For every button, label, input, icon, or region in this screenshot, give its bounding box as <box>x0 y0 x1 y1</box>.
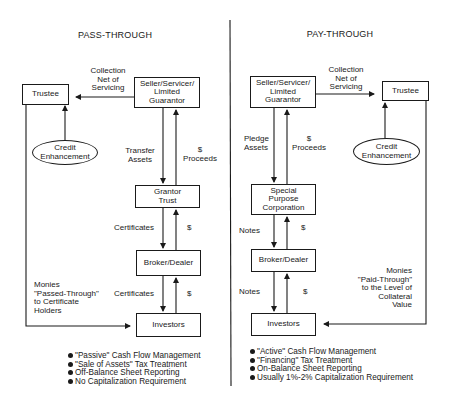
pyt-spc-label: Special Purpose Corporation <box>263 187 305 213</box>
pt-seller-box: Seller/Servicer/ Limited Guarantor <box>134 77 200 108</box>
pt-investors-box: Investors <box>136 313 201 337</box>
pt-grantor-trust-label: Grantor Trust <box>154 188 181 205</box>
bullet-icon <box>250 358 255 363</box>
divider-line <box>230 20 231 386</box>
pt-credit-enhancement-ellipse: Credit Enhancement <box>32 140 98 165</box>
pt-credit-enhancement-label: Credit Enhancement <box>40 144 89 161</box>
pt-dollar-label-1: $ <box>187 224 191 233</box>
pt-proceeds-label: $ Proceeds <box>180 146 220 163</box>
bullet-icon <box>250 366 255 371</box>
pyt-proceeds-label: $ Proceeds <box>288 135 330 152</box>
pyt-bullet-item: Usually 1%-2% Capitalization Requirement <box>250 374 413 383</box>
pyt-trustee-label: Trustee <box>392 87 419 96</box>
bullet-icon <box>250 349 255 354</box>
pyt-investors-box: Investors <box>251 313 316 336</box>
pt-trustee-label: Trustee <box>32 90 59 99</box>
pyt-monies-label: Monies "Paid-Through" to the Level of Co… <box>352 267 412 310</box>
pyt-bullet-list: "Active" Cash Flow Management "Financing… <box>250 348 413 382</box>
pt-investors-label: Investors <box>152 321 184 330</box>
pt-bullet-list: "Passive" Cash Flow Management "Sale of … <box>68 352 201 386</box>
bullet-icon <box>68 370 73 375</box>
pt-bullet-item: No Capitalization Requirement <box>68 378 201 387</box>
pt-seller-label: Seller/Servicer/ Limited Guarantor <box>140 80 194 106</box>
pyt-seller-box: Seller/Servicer/ Limited Guarantor <box>250 76 316 108</box>
pyt-credit-enhancement-ellipse: Credit Enhancement <box>353 138 420 165</box>
pt-broker-dealer-label: Broker/Dealer <box>144 259 193 268</box>
bullet-icon <box>68 362 73 367</box>
pt-certificates-label-1: Certificates <box>114 224 154 233</box>
pyt-notes-label-2: Notes <box>239 288 260 297</box>
pyt-dollar-label-1: $ <box>301 224 305 233</box>
pt-transfer-assets-label: Transfer Assets <box>118 147 162 164</box>
pyt-collection-label: Collection Net of Servicing <box>320 66 372 92</box>
bullet-icon <box>250 375 255 380</box>
pyt-credit-enhancement-label: Credit Enhancement <box>362 143 411 160</box>
pay-through-title: PAY-THROUGH <box>285 29 395 39</box>
pass-through-title: PASS-THROUGH <box>60 30 170 40</box>
connector-lines <box>0 0 455 406</box>
pyt-seller-label: Seller/Servicer/ Limited Guarantor <box>256 79 310 105</box>
pyt-dollar-label-2: $ <box>303 288 307 297</box>
pyt-broker-dealer-label: Broker/Dealer <box>259 256 308 265</box>
pt-monies-label: Monies "Passed-Through" to Certificate H… <box>34 281 99 315</box>
bullet-icon <box>68 379 73 384</box>
pt-grantor-trust-box: Grantor Trust <box>135 185 200 208</box>
pyt-notes-label-1: Notes <box>239 227 260 236</box>
pt-collection-label: Collection Net of Servicing <box>82 67 134 93</box>
pyt-investors-label: Investors <box>267 320 299 329</box>
pt-broker-dealer-box: Broker/Dealer <box>136 250 201 276</box>
pt-certificates-label-2: Certificates <box>114 290 154 299</box>
pyt-trustee-box: Trustee <box>382 81 429 101</box>
pt-dollar-label-2: $ <box>187 290 191 299</box>
pt-trustee-box: Trustee <box>22 84 69 105</box>
pyt-spc-box: Special Purpose Corporation <box>251 184 316 215</box>
bullet-icon <box>68 353 73 358</box>
pyt-broker-dealer-box: Broker/Dealer <box>251 249 316 272</box>
pyt-pledge-assets-label: Pledge Assets <box>244 135 269 152</box>
